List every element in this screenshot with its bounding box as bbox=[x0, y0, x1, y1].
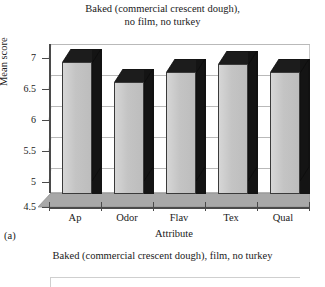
bar-odor bbox=[114, 44, 144, 194]
y-tick-5-5 bbox=[42, 151, 50, 152]
chart-title-line-2: no film, no turkey bbox=[0, 15, 325, 28]
figure-b-plot-frame bbox=[50, 277, 300, 287]
x-tick-label-odor: Odor bbox=[101, 212, 153, 223]
y-axis-line bbox=[49, 44, 51, 193]
y-tick-6 bbox=[42, 120, 50, 121]
y-tick-label-5-5: 5.5 bbox=[14, 146, 36, 156]
chart-title-b-line-2: film, no turkey bbox=[210, 250, 273, 261]
bar-odor-front-face bbox=[114, 82, 144, 194]
x-tick-1 bbox=[101, 202, 102, 211]
y-tick-6-5 bbox=[42, 89, 50, 90]
chart-title-b: Baked (commercial crescent dough), film,… bbox=[0, 249, 325, 262]
y-tick-label-6: 6 bbox=[14, 115, 36, 125]
figure-a: Baked (commercial crescent dough), no fi… bbox=[0, 0, 325, 250]
bar-qual-side-face bbox=[300, 59, 310, 194]
bar-ap-front-face bbox=[62, 62, 92, 194]
figure-b: Baked (commercial crescent dough), film,… bbox=[0, 246, 325, 282]
y-tick-label-4-5: 4.5 bbox=[14, 202, 36, 212]
y-axis-title: Mean score bbox=[0, 37, 9, 86]
x-tick-label-qual: Qual bbox=[257, 212, 309, 223]
plot-area: 7 6.5 6 5.5 5 4.5 Ap Odor Flav Tex Qual bbox=[38, 44, 310, 209]
bar-flav-side-face bbox=[196, 59, 206, 194]
bar-flav bbox=[166, 44, 196, 194]
chart-title: Baked (commercial crescent dough), no fi… bbox=[0, 2, 325, 28]
bar-qual-front-face bbox=[270, 72, 300, 194]
chart-title-b-line-1: Baked (commercial crescent dough), bbox=[53, 250, 208, 261]
chart-title-line-1: Baked (commercial crescent dough), bbox=[85, 3, 240, 14]
bar-odor-side-face bbox=[144, 69, 154, 194]
bar-flav-front-face bbox=[166, 72, 196, 194]
x-tick-label-ap: Ap bbox=[49, 212, 101, 223]
x-tick-label-tex: Tex bbox=[205, 212, 257, 223]
x-axis-line bbox=[49, 207, 310, 209]
bar-qual bbox=[270, 44, 300, 194]
x-tick-2 bbox=[153, 202, 154, 211]
bar-tex-front-face bbox=[218, 64, 248, 194]
figure-label-a: (a) bbox=[4, 230, 16, 241]
x-tick-0 bbox=[49, 202, 50, 211]
x-tick-5 bbox=[309, 202, 310, 211]
x-axis-title: Attribute bbox=[38, 228, 310, 239]
x-tick-4 bbox=[257, 202, 258, 211]
bar-tex-side-face bbox=[248, 51, 258, 194]
y-tick-7 bbox=[42, 58, 50, 59]
y-tick-5 bbox=[42, 182, 50, 183]
x-tick-3 bbox=[205, 202, 206, 211]
bar-tex bbox=[218, 44, 248, 194]
y-tick-label-5: 5 bbox=[14, 177, 36, 187]
y-tick-label-6-5: 6.5 bbox=[14, 84, 36, 94]
y-tick-label-7: 7 bbox=[14, 53, 36, 63]
x-tick-label-flav: Flav bbox=[153, 212, 205, 223]
bar-ap-side-face bbox=[92, 49, 102, 194]
bar-ap bbox=[62, 44, 92, 194]
